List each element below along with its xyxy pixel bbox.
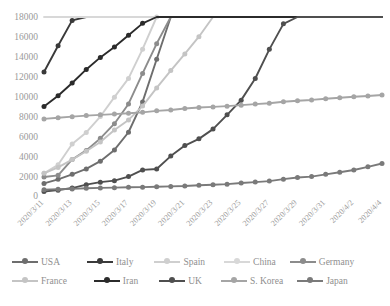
data-point — [126, 174, 131, 179]
data-point — [351, 94, 356, 99]
legend-item-italy[interactable]: Italy — [87, 252, 133, 271]
series-line — [44, 17, 382, 173]
x-axis-tick-label: 2020/3/31 — [297, 198, 327, 228]
data-point — [56, 43, 61, 48]
data-point — [112, 185, 117, 190]
legend-label: Italy — [116, 257, 133, 267]
data-point — [267, 101, 272, 106]
data-point — [70, 114, 75, 119]
data-point — [323, 96, 328, 101]
legend-marker-dot — [22, 277, 28, 283]
data-point — [126, 76, 131, 81]
data-point — [168, 107, 173, 112]
data-point — [112, 44, 117, 49]
legend-marker-dot — [234, 258, 240, 264]
x-axis-tick-label: 2020/3/23 — [185, 198, 215, 228]
series-line — [44, 17, 382, 107]
data-point — [98, 185, 103, 190]
data-point — [56, 187, 61, 192]
data-point — [182, 106, 187, 111]
data-point — [337, 95, 342, 100]
legend-swatch-icon — [159, 276, 185, 285]
data-point — [126, 185, 131, 190]
x-axis-tick-label: 2020/4/2 — [328, 198, 355, 225]
data-point — [70, 186, 75, 191]
series-s-korea — [42, 93, 385, 122]
data-point — [154, 57, 159, 62]
legend-item-usa[interactable]: USA — [12, 252, 60, 271]
data-point — [84, 166, 89, 171]
legend-label: USA — [41, 257, 60, 267]
legend-marker-dot — [164, 258, 170, 264]
data-point — [140, 104, 145, 109]
legend-item-iran[interactable]: Iran — [94, 271, 138, 290]
y-axis-tick-label: 18000 — [14, 12, 38, 22]
y-axis-tick-label: 2000 — [19, 172, 38, 182]
x-axis-tick-label: 2020/3/25 — [213, 198, 243, 228]
data-point — [351, 167, 356, 172]
y-axis-tick-label: 10000 — [14, 92, 38, 102]
data-point — [196, 136, 201, 141]
data-point — [112, 95, 117, 100]
data-point — [70, 80, 75, 85]
x-axis-tick-label: 2020/3/13 — [44, 198, 74, 228]
legend-item-japan[interactable]: Japan — [297, 271, 348, 290]
data-point — [140, 21, 145, 26]
series-usa — [42, 17, 383, 186]
legend-swatch-icon — [221, 276, 247, 285]
data-point — [70, 172, 75, 177]
legend-item-germany[interactable]: Germany — [290, 252, 354, 271]
legend-swatch-icon — [12, 276, 38, 285]
data-point — [126, 117, 131, 122]
legend-swatch-icon — [154, 257, 180, 266]
data-point — [380, 93, 385, 98]
data-point — [196, 34, 201, 39]
series-line — [44, 17, 382, 183]
data-point — [309, 97, 314, 102]
data-point — [267, 179, 272, 184]
legend-row: FranceIranUKS. KoreaJapan — [0, 271, 390, 290]
y-axis-tick-label: 4000 — [19, 152, 38, 162]
legend-item-spain[interactable]: Spain — [154, 252, 205, 271]
y-axis-tick-label: 6000 — [19, 132, 38, 142]
data-point — [112, 121, 117, 126]
data-point — [168, 184, 173, 189]
data-point — [70, 157, 75, 162]
data-point — [281, 21, 286, 26]
data-point — [84, 186, 89, 191]
data-point — [112, 128, 117, 133]
data-point — [140, 47, 145, 52]
legend-label: Japan — [326, 276, 348, 286]
data-point — [98, 112, 103, 117]
legend-swatch-icon — [94, 276, 120, 285]
data-point — [281, 99, 286, 104]
legend-item-france[interactable]: France — [12, 271, 67, 290]
x-axis-tick-label: 2020/3/27 — [241, 198, 271, 228]
data-point — [56, 173, 61, 178]
data-point — [42, 104, 47, 109]
data-point — [84, 113, 89, 118]
legend-marker-dot — [169, 277, 175, 283]
data-point — [98, 55, 103, 60]
legend-label: Spain — [183, 257, 205, 267]
series-line — [44, 17, 382, 72]
data-point — [337, 170, 342, 175]
data-point — [365, 164, 370, 169]
legend-item-china[interactable]: China — [224, 252, 276, 271]
data-point — [168, 68, 173, 73]
data-point — [140, 167, 145, 172]
legend-item-uk[interactable]: UK — [159, 271, 202, 290]
data-point — [84, 149, 89, 154]
legend-marker-dot — [104, 277, 110, 283]
data-point — [154, 108, 159, 113]
line-chart: 0200040006000800010000120001400016000180… — [0, 0, 390, 306]
data-point — [140, 110, 145, 115]
data-point — [239, 98, 244, 103]
plot-svg: 0200040006000800010000120001400016000180… — [0, 0, 390, 252]
data-point — [239, 103, 244, 108]
data-point — [196, 183, 201, 188]
legend-item-s-korea[interactable]: S. Korea — [221, 271, 283, 290]
x-axis-tick-label: 2020/3/29 — [269, 198, 299, 228]
data-point — [98, 180, 103, 185]
data-point — [211, 104, 216, 109]
